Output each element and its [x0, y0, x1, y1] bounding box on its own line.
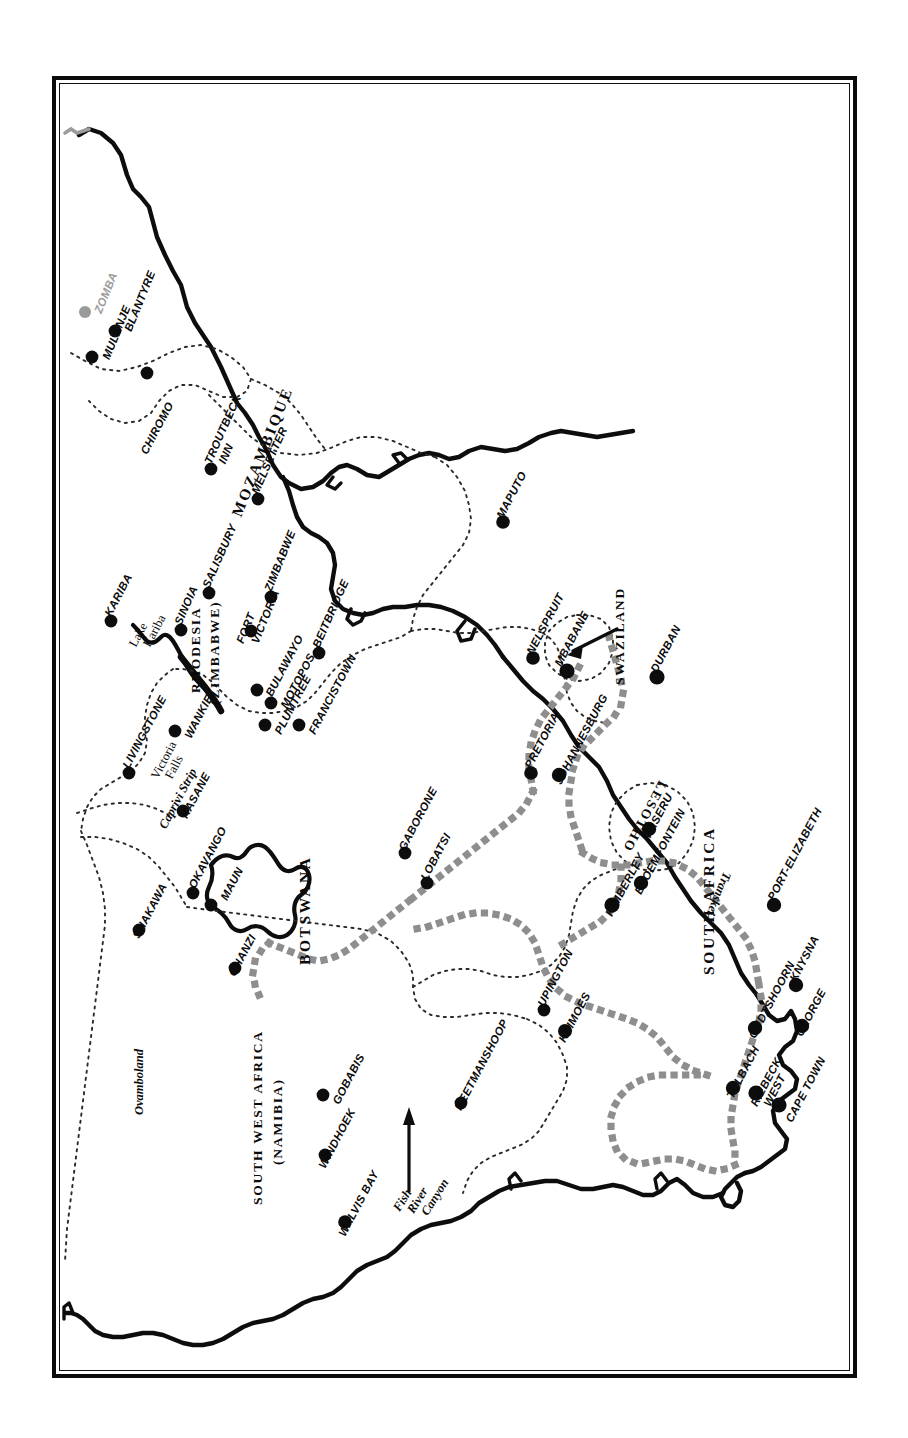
- coastline-mozambique-north: [79, 129, 633, 489]
- country-label-rhodesia: RHODESIA: [189, 607, 203, 693]
- country-label-botswana: BOTSWANA: [297, 855, 313, 965]
- city-dot-motopos: [265, 697, 278, 710]
- city-dot-francistown: [293, 719, 306, 732]
- border-caprivi-north: [77, 803, 169, 815]
- country-label-zimbabwe-paren: (ZIMBABWE): [208, 601, 222, 705]
- border-group: [65, 345, 695, 1261]
- border-namibia-north: [65, 831, 105, 1261]
- route-track-group: [253, 637, 761, 1171]
- city-dot-mulanje: [86, 351, 99, 364]
- route-upington-keimoes: [253, 943, 269, 995]
- city-dot-zomba: [79, 306, 91, 318]
- border-namibia-southafrica: [463, 1019, 567, 1193]
- city-dot-bulawayo: [251, 684, 264, 697]
- city-dot-chiromo: [141, 367, 154, 380]
- region-label-ovamboland: Ovamboland: [133, 1049, 146, 1115]
- coastline-cape-peninsula: [721, 1173, 745, 1207]
- country-label-swa-line2: (NAMIBIA): [271, 1078, 285, 1165]
- map-canvas: ZOMBA BLANTYRE MULANJE CHIROMO TROUTBECK…: [61, 85, 848, 1369]
- country-label-swaziland: SWAZILAND: [613, 587, 627, 685]
- route-tulbach-upington: [415, 913, 707, 1075]
- city-dot-gobabis: [317, 1089, 330, 1102]
- route-capetown-tulbach: [611, 1075, 735, 1171]
- city-dot-wankie: [169, 725, 182, 738]
- coastline-inlet-2: [327, 477, 341, 489]
- fish-river-canyon-arrow: [403, 1107, 415, 1191]
- map-page: ZOMBA BLANTYRE MULANJE CHIROMO TROUTBECK…: [0, 0, 908, 1438]
- city-dot-plumtree: [259, 719, 272, 732]
- city-dot-maun: [205, 899, 218, 912]
- country-label-swa-line1: SOUTH WEST AFRICA: [251, 1030, 265, 1205]
- border-zimbabwe-north: [209, 395, 435, 457]
- map-vector-layer: [61, 85, 848, 1369]
